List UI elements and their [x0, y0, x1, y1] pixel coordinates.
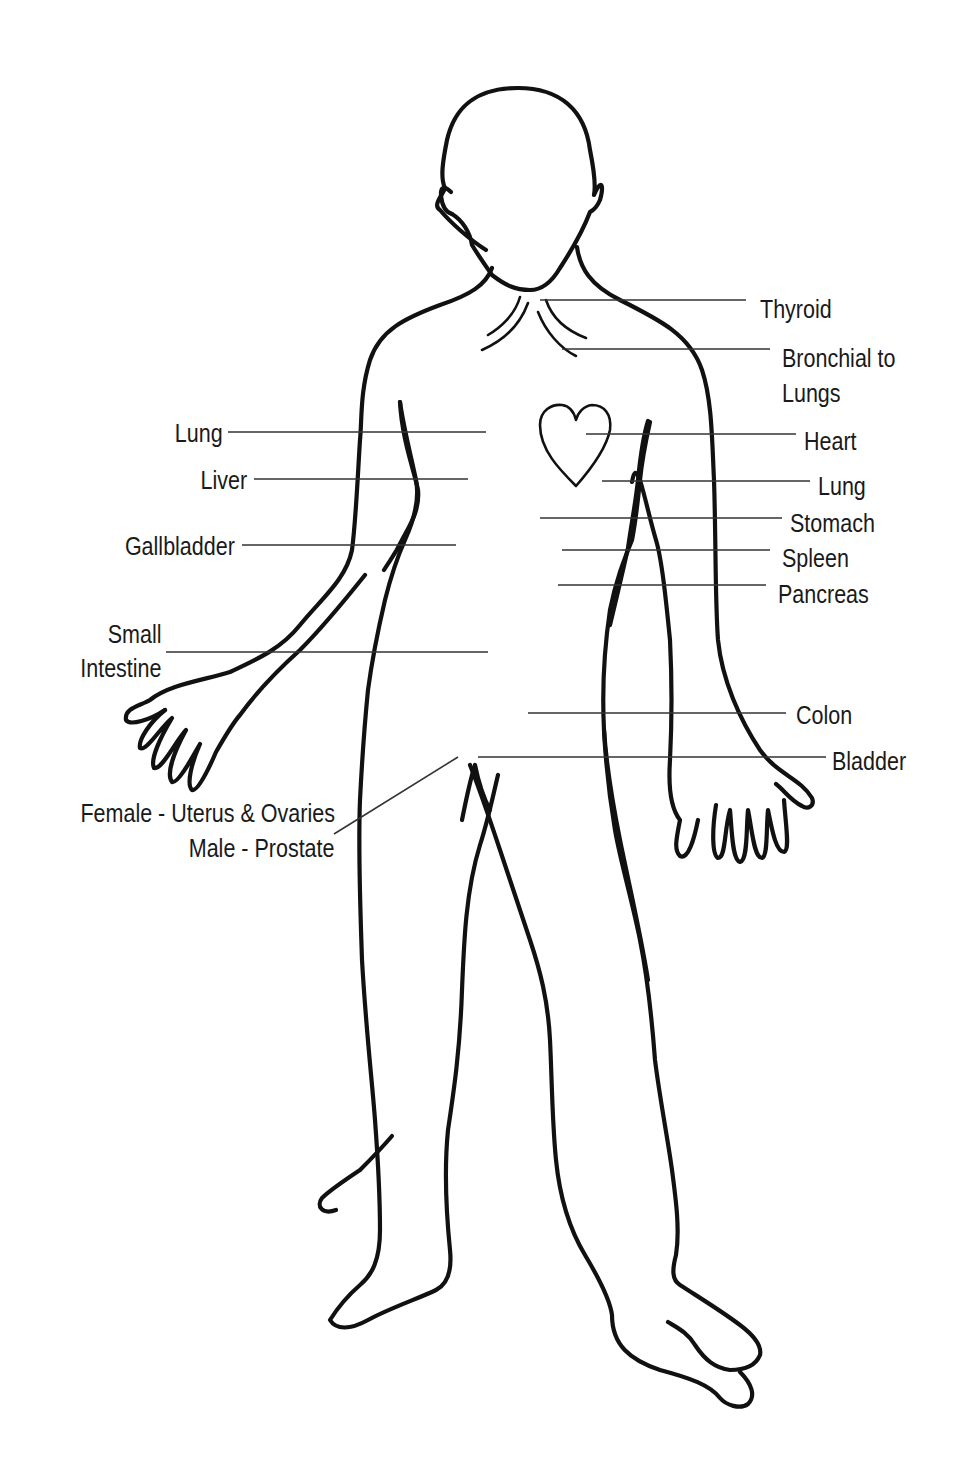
bronchial-mark: [482, 303, 528, 350]
label-lung-right: Lung: [818, 469, 866, 503]
label-small-intestine-line1: Small: [108, 617, 162, 651]
bronchial-mark: [546, 300, 586, 338]
label-lung-left: Lung: [175, 416, 223, 450]
right-leg-outline: [470, 765, 752, 1407]
label-bronchial-line1: Bronchial to: [782, 341, 896, 375]
label-bladder: Bladder: [832, 744, 906, 778]
bronchial-mark: [488, 297, 520, 335]
right-torso-side: [604, 730, 648, 980]
reproductive-leader: [334, 757, 458, 834]
label-reproductive-line1: Female - Uterus & Ovaries: [81, 796, 335, 830]
left-shoulder-outline: [126, 268, 492, 722]
right-hand-outline: [713, 800, 787, 862]
label-gallbladder: Gallbladder: [125, 529, 235, 563]
body-diagram: Thyroid Bronchial to Lungs Heart Lung St…: [0, 0, 969, 1479]
label-thyroid: Thyroid: [760, 292, 832, 326]
right-arm-inner-top: [610, 421, 648, 625]
heart-icon: [540, 405, 610, 486]
body-outline-drawing: [0, 0, 969, 1479]
left-hand-outline: [140, 575, 365, 790]
label-small-intestine-line2: Intestine: [81, 651, 162, 685]
right-arm-outer: [632, 473, 698, 857]
label-bronchial-line2: Lungs: [782, 376, 841, 410]
label-stomach: Stomach: [790, 506, 875, 540]
label-pancreas: Pancreas: [778, 577, 869, 611]
left-inner-arm: [330, 402, 498, 1328]
label-spleen: Spleen: [782, 541, 849, 575]
right-shoulder-outline: [577, 247, 813, 808]
head-outline: [437, 88, 602, 290]
label-colon: Colon: [796, 698, 852, 732]
label-liver: Liver: [200, 463, 247, 497]
label-reproductive-line2: Male - Prostate: [189, 831, 335, 865]
label-heart: Heart: [804, 424, 857, 458]
right-inner-arm: [603, 422, 760, 1370]
